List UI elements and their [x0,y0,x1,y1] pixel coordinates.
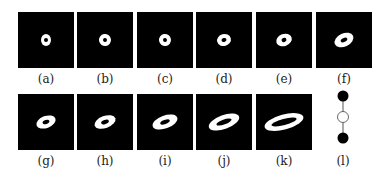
graph-diagram [333,88,353,148]
caption-k: (k) [256,154,312,168]
graph-node-middle [338,112,349,123]
digit-panel-h [77,94,133,150]
digit-panel-c [137,12,193,68]
caption-c: (c) [137,72,193,86]
digit-panel-e [256,12,312,68]
caption-g: (g) [18,154,74,168]
digit-panel-f [316,12,372,68]
caption-i: (i) [137,154,193,168]
digit-panel-b [77,12,133,68]
caption-b: (b) [77,72,133,86]
caption-f: (f) [316,72,372,86]
caption-a: (a) [18,72,74,86]
graph-node-top [338,91,349,102]
caption-j: (j) [196,154,252,168]
caption-d: (d) [196,72,252,86]
caption-e: (e) [256,72,312,86]
digit-panel-i [137,94,193,150]
digit-panel-a [18,12,74,68]
graph-node-bottom [338,133,349,144]
digit-panel-g [18,94,74,150]
digit-panel-j [196,94,252,150]
digit-panel-d [196,12,252,68]
digit-panel-k [256,94,312,150]
caption-h: (h) [77,154,133,168]
caption-l: (l) [315,154,371,168]
